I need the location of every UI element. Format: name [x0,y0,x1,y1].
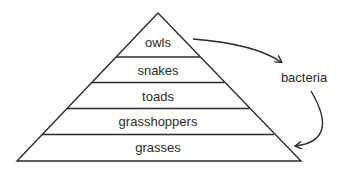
level-toads: toads [142,89,174,104]
arrow-bacteria-to-grasses [296,91,323,146]
level-snakes: snakes [137,63,178,78]
level-grasshoppers: grasshoppers [119,114,198,129]
arrow-owls-to-bacteria [193,39,281,62]
level-grasses: grasses [135,140,181,155]
decomposer-bacteria: bacteria [281,70,327,85]
level-owls: owls [145,35,171,50]
